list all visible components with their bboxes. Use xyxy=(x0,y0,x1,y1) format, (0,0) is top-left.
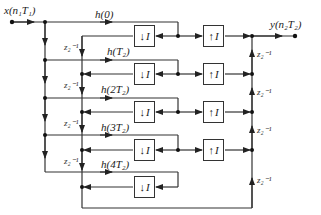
coefficient-label-2: h(2T₂) xyxy=(101,84,129,95)
right-delay-label: z₂⁻¹ xyxy=(257,88,271,97)
factor-label: I xyxy=(215,144,219,156)
down-arrow-icon: ↓ xyxy=(139,144,145,156)
output-label: y(n₂T₂) xyxy=(270,19,301,30)
left-delay-label: z₂⁻¹ xyxy=(64,119,78,128)
up-arrow-icon: ↑ xyxy=(208,30,214,42)
upsampler-box-0: ↑I xyxy=(203,25,224,47)
down-arrow-icon: ↓ xyxy=(139,181,145,193)
factor-label: I xyxy=(215,68,219,80)
coefficient-label-3: h(3T₂) xyxy=(101,122,129,133)
upsampler-box-3: ↑I xyxy=(203,139,224,161)
downsampler-box-0: ↓I xyxy=(134,25,155,47)
right-delay-label: z₂⁻¹ xyxy=(257,50,271,59)
coefficient-label-1: h(T₂) xyxy=(107,46,130,57)
factor-label: I xyxy=(146,106,150,118)
up-arrow-icon: ↑ xyxy=(208,68,214,80)
diagram-wires xyxy=(0,0,321,215)
upsampler-box-2: ↑I xyxy=(203,101,224,123)
left-delay-label: z₂⁻¹ xyxy=(64,43,78,52)
factor-label: I xyxy=(146,30,150,42)
left-delay-label: z₂⁻¹ xyxy=(64,81,78,90)
factor-label: I xyxy=(146,181,150,193)
coefficient-label-0: h(0) xyxy=(95,9,113,20)
upsampler-box-1: ↑I xyxy=(203,63,224,85)
downsampler-box-4: ↓I xyxy=(134,176,155,198)
coefficient-label-4: h(4T₂) xyxy=(101,159,129,170)
down-arrow-icon: ↓ xyxy=(139,106,145,118)
up-arrow-icon: ↑ xyxy=(208,106,214,118)
left-delay-label: z₂⁻¹ xyxy=(64,157,78,166)
up-arrow-icon: ↑ xyxy=(208,144,214,156)
factor-label: I xyxy=(146,144,150,156)
right-delay-label: z₂⁻¹ xyxy=(257,176,271,185)
factor-label: I xyxy=(146,68,150,80)
downsampler-box-3: ↓I xyxy=(134,139,155,161)
downsampler-box-2: ↓I xyxy=(134,101,155,123)
down-arrow-icon: ↓ xyxy=(139,68,145,80)
downsampler-box-1: ↓I xyxy=(134,63,155,85)
factor-label: I xyxy=(215,106,219,118)
input-label: x(n₁T₁) xyxy=(4,5,35,16)
factor-label: I xyxy=(215,30,219,42)
right-delay-label: z₂⁻¹ xyxy=(257,126,271,135)
down-arrow-icon: ↓ xyxy=(139,30,145,42)
